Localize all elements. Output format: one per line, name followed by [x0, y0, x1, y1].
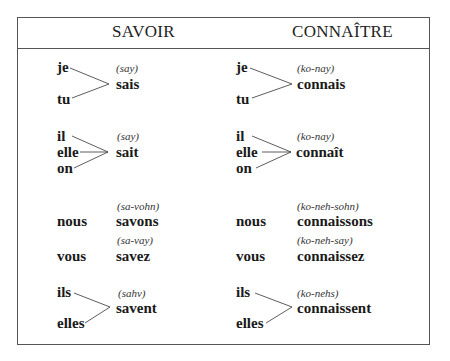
- pronoun-je: je: [236, 60, 248, 75]
- pronoun-elle: elle: [236, 145, 258, 160]
- pronoun-elle: elle: [57, 145, 79, 160]
- verb-sait: sait: [116, 145, 139, 160]
- phonetic-connaissez: (ko-neh-say): [297, 235, 353, 246]
- phonetic-sait: (say): [117, 131, 139, 142]
- verb-connaissez: connaissez: [297, 249, 365, 264]
- pronoun-je: je: [57, 60, 69, 75]
- header-divider: [17, 48, 430, 49]
- phonetic-connaissent: (ko-nehs): [297, 288, 339, 299]
- pronoun-il: il: [57, 129, 65, 144]
- phonetic-connaissons: (ko-neh-sohn): [297, 201, 359, 212]
- verb-savez: savez: [116, 249, 150, 264]
- pronoun-nous: nous: [57, 214, 87, 229]
- pronoun-tu: tu: [236, 92, 249, 107]
- conjugation-table: [17, 17, 430, 345]
- header-savoir: SAVOIR: [112, 22, 175, 42]
- phonetic-savez: (sa-vay): [117, 235, 153, 246]
- phonetic-connait: (ko-nay): [297, 131, 334, 142]
- verb-savons: savons: [116, 214, 159, 229]
- pronoun-vous: vous: [236, 249, 265, 264]
- verb-connais: connais: [297, 77, 345, 92]
- phonetic-savent: (sahv): [118, 288, 146, 299]
- pronoun-elles: elles: [236, 316, 264, 331]
- pronoun-elles: elles: [57, 316, 85, 331]
- phonetic-sais: (say): [116, 63, 138, 74]
- pronoun-nous: nous: [236, 214, 266, 229]
- verb-sais: sais: [116, 77, 139, 92]
- pronoun-ils: ils: [57, 285, 71, 300]
- pronoun-il: il: [236, 129, 244, 144]
- phonetic-savons: (sa-vohn): [117, 201, 159, 212]
- pronoun-on: on: [236, 161, 252, 176]
- pronoun-tu: tu: [57, 92, 70, 107]
- pronoun-ils: ils: [236, 285, 250, 300]
- pronoun-vous: vous: [57, 249, 86, 264]
- verb-savent: savent: [116, 301, 157, 316]
- verb-connait: connaît: [296, 145, 344, 160]
- header-connaitre: CONNAÎTRE: [292, 22, 393, 42]
- pronoun-on: on: [57, 161, 73, 176]
- phonetic-connais: (ko-nay): [297, 63, 334, 74]
- verb-connaissons: connaissons: [297, 214, 373, 229]
- verb-connaissent: connaissent: [297, 301, 371, 316]
